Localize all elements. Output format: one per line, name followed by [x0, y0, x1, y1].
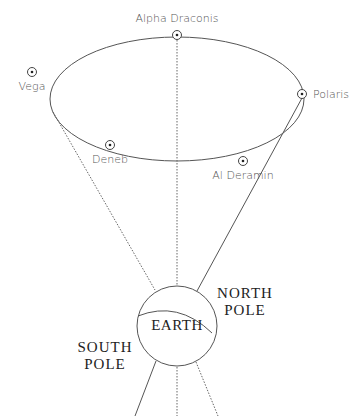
vega-axis-line	[53, 112, 155, 290]
polaris-axis-line	[197, 98, 302, 291]
star-al-deramin: Al Deramin	[212, 157, 273, 183]
star-marker-dot	[301, 93, 304, 96]
star-label-al-deramin: Al Deramin	[212, 169, 273, 182]
south-pole-label-line1: SOUTH	[77, 339, 132, 355]
star-label-deneb: Deneb	[92, 153, 128, 166]
star-marker-dot	[31, 71, 34, 74]
polaris-axis-line-lower	[135, 361, 156, 416]
star-polaris: Polaris	[298, 88, 350, 101]
star-marker-dot	[109, 144, 112, 147]
star-label-alpha-draconis: Alpha Draconis	[135, 12, 218, 25]
earth-label: EARTH	[151, 317, 203, 333]
precession-diagram: EARTH NORTH POLE SOUTH POLE Alpha Dracon…	[0, 0, 361, 416]
north-pole-label-line1: NORTH	[217, 285, 273, 301]
star-label-vega: Vega	[19, 80, 46, 93]
north-pole-label-line2: POLE	[224, 302, 266, 318]
star-marker-dot	[176, 34, 179, 37]
star-label-polaris: Polaris	[313, 88, 349, 101]
star-deneb: Deneb	[92, 141, 128, 167]
star-vega: Vega	[19, 68, 46, 94]
star-alpha-draconis: Alpha Draconis	[135, 12, 218, 40]
star-marker-dot	[242, 160, 245, 163]
south-pole-label-line2: POLE	[84, 356, 126, 372]
vega-axis-line-lower	[196, 362, 218, 416]
